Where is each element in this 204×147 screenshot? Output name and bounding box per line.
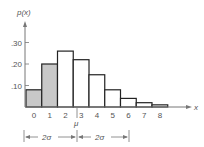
- x-tick-label: 8: [158, 111, 163, 120]
- bars-group: [26, 51, 168, 107]
- x-tick-label: 3: [79, 111, 84, 120]
- bar-2: [58, 51, 74, 107]
- probability-histogram: x p(x) .10.20.30 012345678 μ 2σ 2σ: [0, 0, 204, 147]
- x-tick-label: 6: [126, 111, 131, 120]
- x-tick-label: 4: [95, 111, 100, 120]
- bar-3: [73, 60, 89, 107]
- y-axis-arrow-icon: [23, 21, 27, 27]
- y-tick-label: .30: [11, 39, 23, 48]
- y-tick-label: .10: [11, 82, 23, 91]
- left-interval-label: 2σ: [41, 133, 52, 142]
- right-arrow-icon: [123, 135, 128, 139]
- bar-6: [121, 98, 137, 107]
- x-axis-arrow-icon: [186, 105, 192, 109]
- x-axis-label: x: [193, 103, 199, 112]
- y-tick-label: .20: [11, 60, 23, 69]
- x-tick-label: 1: [47, 111, 52, 120]
- x-tick-label: 5: [110, 111, 115, 120]
- bar-5: [105, 90, 121, 107]
- left-arrow-icon: [25, 135, 30, 139]
- x-tick-label: 2: [63, 111, 68, 120]
- left-arrow-icon: [78, 135, 83, 139]
- right-interval-label: 2σ: [94, 133, 105, 142]
- right-arrow-icon: [71, 135, 76, 139]
- mean-label: μ: [73, 119, 79, 128]
- bar-1: [42, 64, 58, 107]
- y-axis-label: p(x): [16, 8, 31, 17]
- x-ticks: 012345678: [32, 111, 163, 120]
- x-tick-label: 7: [142, 111, 147, 120]
- bar-4: [89, 75, 105, 107]
- bar-0: [26, 90, 42, 107]
- x-tick-label: 0: [32, 111, 37, 120]
- y-ticks: .10.20.30: [11, 39, 29, 91]
- bar-7: [136, 103, 152, 107]
